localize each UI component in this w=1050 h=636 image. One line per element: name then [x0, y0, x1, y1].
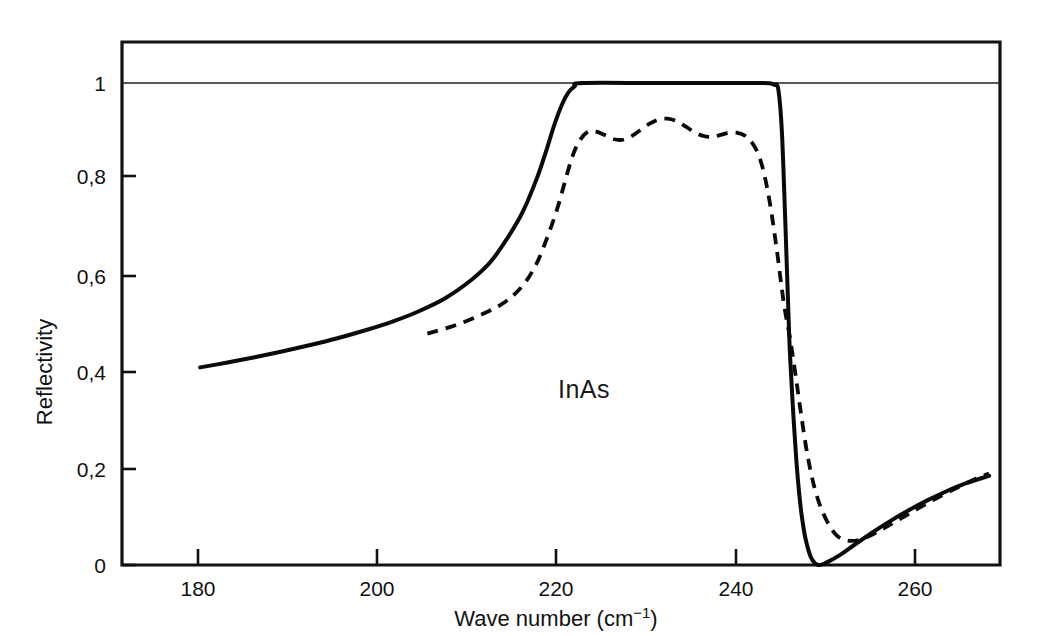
- curve-dashed-reflectivity: [427, 119, 989, 541]
- y-axis-title: Reflectivity: [32, 319, 57, 425]
- y-tick-label-0.6: 0,6: [77, 265, 106, 288]
- y-axis-ticks: [122, 176, 136, 565]
- y-axis-tick-labels: 1 0,8 0,6 0,4 0,2 0: [77, 72, 107, 577]
- y-tick-label-0: 0: [94, 554, 106, 577]
- x-tick-label-220: 220: [538, 577, 573, 600]
- sample-annotation-InAs: InAs: [558, 375, 610, 403]
- reflectivity-chart: 1 0,8 0,6 0,4 0,2 0 Reflectivity 180 200…: [0, 0, 1050, 636]
- y-tick-label-0.8: 0,8: [77, 165, 106, 188]
- x-axis-title-superscript: −1: [633, 604, 650, 621]
- x-axis-title-close: ): [650, 606, 657, 631]
- x-tick-label-260: 260: [897, 577, 932, 600]
- x-tick-label-240: 240: [718, 577, 753, 600]
- x-axis-title: Wave number (cm−1): [454, 604, 657, 631]
- y-tick-label-0.4: 0,4: [77, 361, 107, 384]
- x-axis-tick-labels: 180 200 220 240 260: [180, 577, 932, 600]
- y-tick-label-1: 1: [94, 72, 106, 95]
- x-tick-label-180: 180: [180, 577, 215, 600]
- figure-container: 1 0,8 0,6 0,4 0,2 0 Reflectivity 180 200…: [0, 0, 1050, 636]
- x-axis-title-main: Wave number (cm: [454, 606, 633, 631]
- y-tick-label-0.2: 0,2: [77, 458, 106, 481]
- plot-frame: [122, 42, 1000, 565]
- x-tick-label-200: 200: [359, 577, 394, 600]
- curve-solid-reflectivity: [200, 83, 989, 565]
